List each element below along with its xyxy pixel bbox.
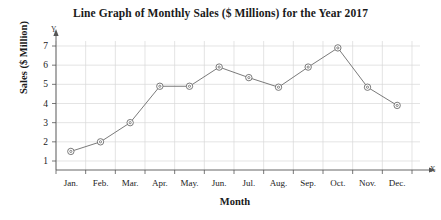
y-tick-label: 2 xyxy=(32,137,48,147)
vertical-gridlines xyxy=(56,41,412,170)
x-axis-ticks xyxy=(56,170,412,174)
y-tick-label: 7 xyxy=(32,41,48,51)
y-tick-label: 5 xyxy=(32,79,48,89)
y-tick-label: 4 xyxy=(32,99,48,109)
line-chart: Line Graph of Monthly Sales ($ Millions)… xyxy=(0,0,441,220)
gridlines xyxy=(56,46,420,161)
y-tick-label: 1 xyxy=(32,156,48,166)
y-tick-label: 6 xyxy=(32,60,48,70)
x-tick-label: Dec. xyxy=(377,178,417,188)
y-axis-ticks xyxy=(52,46,56,161)
axes xyxy=(53,29,436,173)
y-tick-label: 3 xyxy=(32,118,48,128)
